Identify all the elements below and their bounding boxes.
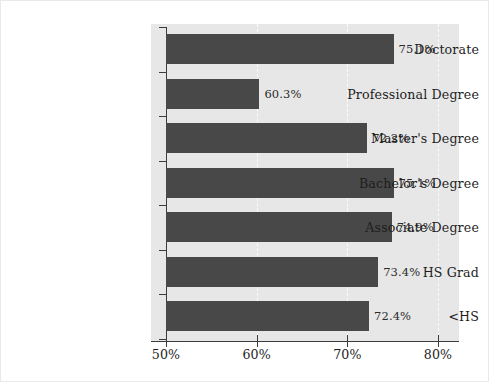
x-tick-70% [347,335,348,347]
x-tick-50% [166,335,167,347]
x-tick-label: 50% [152,347,180,362]
category-label-bachelor-s-degree: Bachelor's Degree [340,175,488,190]
y-tick [159,294,167,295]
y-tick [159,27,167,28]
bar [166,79,259,109]
category-label-professional-degree: Professional Degree [340,86,488,101]
category-label-hs: <HS [340,309,488,324]
y-tick [159,250,167,251]
bar [166,123,367,153]
y-tick [159,116,167,117]
category-label-associate-degree: Associate Degree [340,220,488,235]
x-tick-label: 60% [243,347,271,362]
y-tick [159,161,167,162]
x-tick-80% [438,335,439,347]
chart-figure: 75.1%60.3%72.2%75.1%74.9%73.4%72.4% Doct… [0,0,489,382]
x-tick-60% [257,335,258,347]
x-axis-line [151,341,459,342]
x-tick-label: 80% [424,347,452,362]
category-label-master-s-degree: Master's Degree [340,131,488,146]
x-tick-label: 70% [333,347,361,362]
bar-value-label: 60.3% [264,87,301,101]
category-label-doctorate: Doctorate [340,42,488,57]
y-tick [159,72,167,73]
y-tick [159,205,167,206]
category-label-hs-grad: HS Grad [340,264,488,279]
bar [166,301,369,331]
